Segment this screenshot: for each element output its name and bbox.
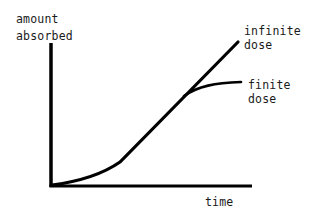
infinite-dose-label-line1: infinite <box>244 24 301 38</box>
infinite-dose-curve <box>52 42 238 185</box>
infinite-dose-label-line2: dose <box>244 38 273 52</box>
y-axis-label-line1: amount <box>16 12 59 26</box>
finite-dose-label-line1: finite <box>248 78 291 92</box>
x-axis-label: time <box>205 195 234 209</box>
y-axis-label-line2: absorbed <box>16 29 73 43</box>
absorption-diagram: amount absorbed infinite dose finite dos… <box>0 0 309 218</box>
finite-dose-label-line2: dose <box>248 92 277 106</box>
